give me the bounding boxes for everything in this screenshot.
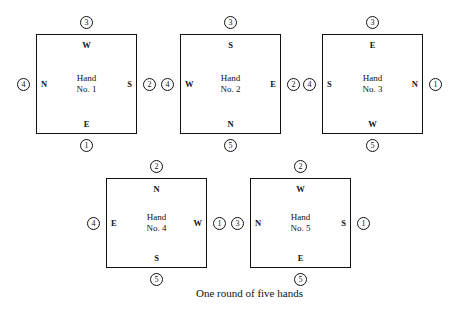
hand-group-2: SNWEHandNo. 23542 [180,34,281,134]
compass-left-hand-4: E [111,219,117,228]
hand-square-2: SNWEHandNo. 2 [180,34,281,134]
marker-top-hand-4: 2 [150,160,163,173]
marker-bottom-hand-3: 5 [366,139,379,152]
marker-top-hand-1: 3 [80,16,93,29]
compass-top-hand-2: S [228,41,233,50]
compass-right-hand-1: S [127,80,132,89]
marker-bottom-hand-5: 5 [294,273,307,286]
figure-caption: One round of five hands [196,287,303,299]
hand-label-line1-3: Hand [363,73,383,84]
marker-left-hand-2: 4 [161,78,174,91]
hand-group-1: WENSHandNo. 13142 [36,34,137,134]
marker-right-hand-4: 1 [213,217,226,230]
marker-bottom-hand-1: 1 [80,139,93,152]
compass-top-hand-4: N [153,185,159,194]
compass-bottom-hand-1: E [84,120,90,129]
hand-square-4: NSEWHandNo. 4 [106,178,207,268]
hand-label-line1-4: Hand [147,212,167,223]
marker-right-hand-3: 1 [429,78,442,91]
marker-right-hand-1: 2 [143,78,156,91]
compass-left-hand-2: W [185,80,194,89]
hand-square-5: WENSHandNo. 5 [250,178,351,268]
hand-label-line1-2: Hand [221,73,241,84]
marker-right-hand-5: 1 [357,217,370,230]
hand-group-3: EWSNHandNo. 33541 [322,34,423,134]
compass-top-hand-3: E [370,41,376,50]
hand-group-4: NSEWHandNo. 42541 [106,178,207,268]
hand-label-line2-3: No. 3 [363,84,383,95]
hand-label-2: HandNo. 2 [221,73,241,95]
hand-label-line1-1: Hand [77,73,97,84]
hand-label-line2-5: No. 5 [291,223,311,234]
compass-right-hand-3: N [412,80,418,89]
hand-label-5: HandNo. 5 [291,212,311,234]
compass-left-hand-1: N [41,80,47,89]
compass-bottom-hand-5: E [298,254,304,263]
hand-label-3: HandNo. 3 [363,73,383,95]
compass-right-hand-2: E [270,80,276,89]
compass-left-hand-5: N [255,219,261,228]
marker-left-hand-5: 3 [231,217,244,230]
hand-label-4: HandNo. 4 [147,212,167,234]
marker-right-hand-2: 2 [287,78,300,91]
figure-canvas: WENSHandNo. 13142SNWEHandNo. 23542EWSNHa… [0,0,460,315]
marker-bottom-hand-2: 5 [224,139,237,152]
hand-square-3: EWSNHandNo. 3 [322,34,423,134]
hand-square-1: WENSHandNo. 1 [36,34,137,134]
compass-left-hand-3: S [327,80,332,89]
compass-bottom-hand-2: N [227,120,233,129]
compass-top-hand-5: W [296,185,305,194]
compass-bottom-hand-3: W [368,120,377,129]
compass-bottom-hand-4: S [154,254,159,263]
marker-top-hand-2: 3 [224,16,237,29]
hand-label-line2-4: No. 4 [147,223,167,234]
compass-top-hand-1: W [82,41,91,50]
marker-top-hand-3: 3 [366,16,379,29]
hand-label-line2-1: No. 1 [77,84,97,95]
hand-group-5: WENSHandNo. 52531 [250,178,351,268]
compass-right-hand-5: S [341,219,346,228]
hand-label-line2-2: No. 2 [221,84,241,95]
marker-left-hand-1: 4 [17,78,30,91]
hand-label-line1-5: Hand [291,212,311,223]
marker-left-hand-4: 4 [87,217,100,230]
compass-right-hand-4: W [194,219,203,228]
marker-top-hand-5: 2 [294,160,307,173]
marker-left-hand-3: 4 [303,78,316,91]
marker-bottom-hand-4: 5 [150,273,163,286]
hand-label-1: HandNo. 1 [77,73,97,95]
